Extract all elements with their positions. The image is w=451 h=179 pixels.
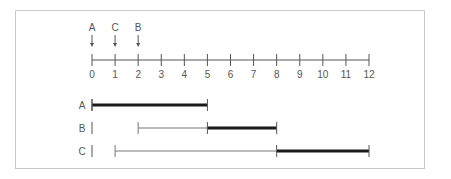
tick-label: 4 [182, 69, 188, 80]
tick-label: 10 [317, 69, 329, 80]
tick-label: 2 [135, 69, 141, 80]
marker-label: B [135, 22, 142, 33]
marker-label: C [111, 22, 118, 33]
time-axis: 0123456789101112 [89, 54, 375, 80]
row-label: A [79, 100, 86, 111]
tick-label: 0 [89, 69, 95, 80]
diagram-frame [16, 11, 425, 169]
tick-label: 11 [341, 69, 352, 80]
timeline-diagram: 0123456789101112 ACB ABC [0, 0, 451, 179]
schedule-rows: ABC [78, 99, 369, 157]
marker-label: A [89, 22, 96, 33]
row-b: B [79, 122, 277, 134]
arrow-down-icon [90, 43, 94, 47]
arrow-down-icon [113, 43, 117, 47]
row-a: A [79, 99, 208, 111]
row-c: C [78, 145, 369, 157]
tick-label: 12 [363, 69, 375, 80]
tick-label: 9 [297, 69, 303, 80]
row-label: B [79, 123, 86, 134]
tick-label: 1 [112, 69, 118, 80]
tick-label: 5 [205, 69, 211, 80]
tick-label: 3 [158, 69, 164, 80]
tick-label: 7 [251, 69, 257, 80]
row-label: C [78, 146, 85, 157]
arrow-down-icon [136, 43, 140, 47]
tick-label: 6 [228, 69, 234, 80]
arrival-markers: ACB [89, 22, 142, 47]
tick-label: 8 [274, 69, 280, 80]
